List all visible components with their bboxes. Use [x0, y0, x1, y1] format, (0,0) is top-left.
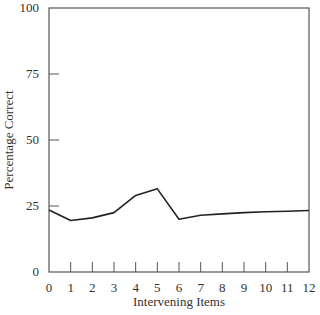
x-tick-label: 10	[259, 280, 272, 295]
x-tick-label: 8	[219, 280, 226, 295]
y-tick-label: 0	[33, 264, 40, 279]
x-tick-label: 11	[281, 280, 294, 295]
y-axis-label: Percentage Correct	[1, 90, 16, 190]
x-tick-label: 3	[111, 280, 118, 295]
plot-frame	[49, 8, 309, 272]
y-tick-label: 100	[20, 0, 40, 15]
y-tick-label: 50	[26, 132, 39, 147]
line-chart: 02550751000123456789101112 Intervening I…	[0, 0, 320, 315]
x-tick-label: 6	[176, 280, 183, 295]
x-tick-label: 9	[241, 280, 248, 295]
x-tick-label: 4	[132, 280, 139, 295]
y-tick-label: 75	[26, 66, 39, 81]
x-axis-label: Intervening Items	[133, 294, 225, 309]
x-tick-label: 2	[89, 280, 96, 295]
y-tick-label: 25	[26, 198, 39, 213]
x-tick-label: 1	[67, 280, 74, 295]
x-tick-label: 5	[154, 280, 161, 295]
x-tick-label: 7	[197, 280, 204, 295]
axes: 02550751000123456789101112	[20, 0, 316, 295]
data-line	[49, 189, 309, 221]
x-tick-label: 12	[303, 280, 316, 295]
x-tick-label: 0	[46, 280, 53, 295]
